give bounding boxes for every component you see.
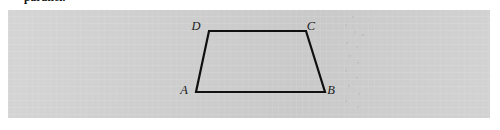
- trapezoid-diagram: A B C D: [0, 0, 500, 130]
- vertex-label-d: D: [190, 19, 200, 33]
- vertex-label-a: A: [179, 83, 188, 97]
- trapezoid-outline: [196, 31, 325, 92]
- figure-page: parallel. A B C D: [0, 0, 500, 130]
- vertex-label-c: C: [307, 19, 316, 33]
- vertex-label-b: B: [327, 83, 335, 97]
